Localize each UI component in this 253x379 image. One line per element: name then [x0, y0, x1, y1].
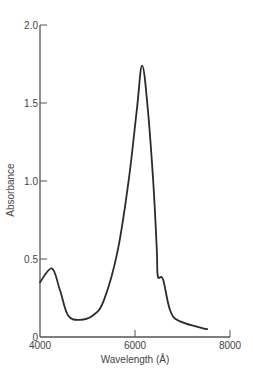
y-tick-label: 2.0	[24, 20, 38, 31]
x-tick-label: 4000	[29, 340, 52, 351]
y-tick-label: 1.0	[24, 176, 38, 187]
absorbance-chart: 00.51.01.52.0 Absorbance 400060008000 Wa…	[0, 0, 253, 379]
y-tick-label: 0.5	[24, 254, 38, 265]
y-axis: 00.51.01.52.0 Absorbance	[5, 20, 47, 343]
spectrum-line	[40, 66, 207, 330]
x-tick-label: 6000	[124, 340, 147, 351]
x-axis-title: Wavelength (Å)	[101, 353, 170, 365]
x-ticks: 400060008000	[29, 330, 242, 351]
x-tick-label: 8000	[219, 340, 242, 351]
x-axis: 400060008000 Wavelength (Å)	[29, 330, 242, 365]
y-tick-label: 1.5	[24, 98, 38, 109]
y-ticks: 00.51.01.52.0	[24, 20, 47, 343]
y-axis-title: Absorbance	[5, 163, 16, 217]
